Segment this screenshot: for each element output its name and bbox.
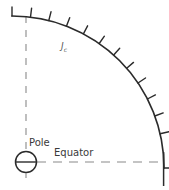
tick-mark — [138, 78, 146, 83]
diagram-canvas: Pole Equator Jc — [0, 0, 169, 190]
tick-mark — [114, 48, 120, 55]
current-symbol-subscript: c — [64, 46, 67, 53]
tick-mark — [49, 12, 51, 21]
tick-mark — [147, 95, 155, 99]
tick-mark — [155, 113, 163, 116]
pole-label: Pole — [29, 138, 50, 148]
tick-mark — [160, 132, 169, 134]
tick-mark — [31, 8, 32, 17]
current-symbol-label: Jc — [61, 42, 67, 53]
tick-mark — [67, 18, 70, 26]
diagram-svg — [0, 0, 169, 190]
tick-mark — [99, 36, 104, 43]
pole-circle-symbol — [16, 152, 37, 173]
tick-mark — [127, 62, 134, 68]
tick-mark — [83, 26, 87, 34]
equator-label: Equator — [54, 148, 93, 158]
